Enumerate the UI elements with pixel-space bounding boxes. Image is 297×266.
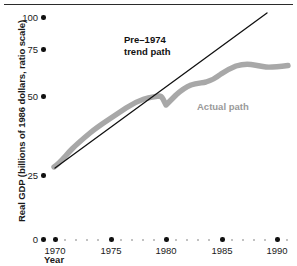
annotation-pre-1974-trend-path: Pre–1974 trend path (124, 34, 170, 57)
annotation-actual-path: Actual path (197, 101, 249, 113)
gdp-chart-figure: Real GDP (billions of 1986 dollars, rati… (0, 0, 297, 266)
actual-path-line (54, 64, 288, 167)
